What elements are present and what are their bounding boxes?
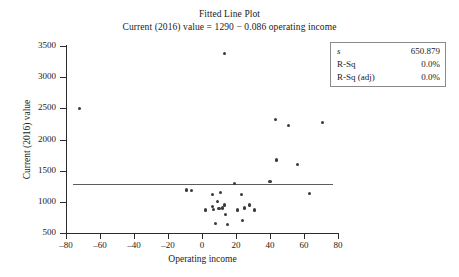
- x-tick-label: 60: [287, 240, 321, 250]
- title-block: Fitted Line Plot Current (2016) value = …: [0, 9, 459, 34]
- plot-area: [66, 46, 338, 233]
- x-tick-label: 80: [321, 240, 355, 250]
- x-tick-mark: [202, 234, 203, 239]
- scatter-point: [287, 124, 290, 127]
- scatter-point: [226, 223, 229, 226]
- scatter-point: [243, 206, 246, 209]
- scatter-point: [219, 191, 222, 194]
- scatter-point: [236, 208, 239, 211]
- statistics-box: s650.879R-Sq0.0%R-Sq (adj)0.0%: [330, 42, 446, 87]
- fitted-line-plot-figure: Fitted Line Plot Current (2016) value = …: [0, 0, 459, 277]
- scatter-point: [241, 219, 244, 222]
- x-tick-mark: [100, 234, 101, 239]
- statistics-label: R-Sq: [337, 58, 356, 71]
- x-tick-label: –80: [49, 240, 83, 250]
- scatter-point: [253, 208, 256, 211]
- scatter-point: [223, 204, 226, 207]
- statistics-row: R-Sq (adj)0.0%: [331, 71, 445, 84]
- scatter-point: [223, 52, 226, 55]
- scatter-point: [233, 182, 236, 185]
- statistics-row: R-Sq0.0%: [331, 58, 445, 71]
- x-tick-mark: [236, 234, 237, 239]
- x-tick-label: 40: [253, 240, 287, 250]
- scatter-point: [240, 193, 243, 196]
- x-axis-title: Operating income: [66, 254, 339, 264]
- statistics-value: 0.0%: [421, 71, 440, 84]
- scatter-point: [214, 222, 217, 225]
- y-axis-title: Current (2016) value: [22, 46, 32, 233]
- scatter-point: [268, 180, 271, 183]
- x-tick-label: 0: [185, 240, 219, 250]
- scatter-point: [204, 208, 207, 211]
- x-tick-mark: [134, 234, 135, 239]
- x-tick-label: 20: [219, 240, 253, 250]
- statistics-value: 0.0%: [421, 58, 440, 71]
- scatter-point: [224, 213, 227, 216]
- scatter-point: [216, 200, 219, 203]
- scatter-point: [296, 163, 299, 166]
- regression-fit-line: [73, 184, 333, 185]
- x-tick-label: –20: [151, 240, 185, 250]
- statistics-label: R-Sq (adj): [337, 71, 375, 84]
- statistics-row: s650.879: [331, 45, 445, 58]
- scatter-point: [185, 188, 188, 191]
- x-tick-mark: [168, 234, 169, 239]
- scatter-point: [321, 121, 324, 124]
- scatter-point: [248, 203, 251, 206]
- scatter-point: [275, 158, 278, 161]
- scatter-point: [190, 189, 193, 192]
- x-tick-label: –60: [83, 240, 117, 250]
- statistics-value: 650.879: [411, 45, 440, 58]
- scatter-point: [274, 118, 277, 121]
- scatter-point: [211, 193, 214, 196]
- scatter-point: [212, 208, 215, 211]
- scatter-point: [308, 192, 311, 195]
- x-tick-label: –40: [117, 240, 151, 250]
- chart-subtitle: Current (2016) value = 1290 − 0.086 oper…: [0, 22, 459, 34]
- x-tick-mark: [338, 234, 339, 239]
- x-tick-mark: [270, 234, 271, 239]
- statistics-label: s: [337, 45, 341, 58]
- x-tick-mark: [66, 234, 67, 239]
- scatter-point: [78, 107, 81, 110]
- chart-title: Fitted Line Plot: [0, 9, 459, 21]
- x-tick-mark: [304, 234, 305, 239]
